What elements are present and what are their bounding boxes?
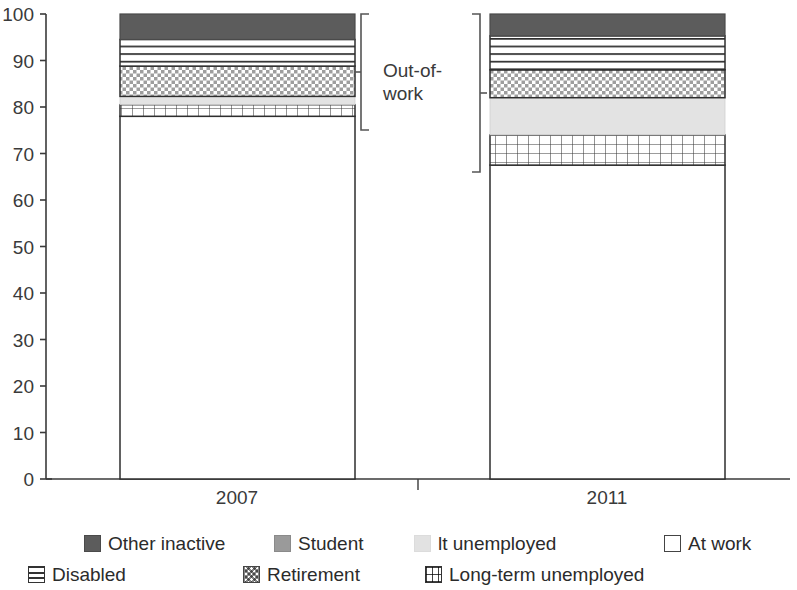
legend-label-disabled: Disabled [52, 564, 126, 586]
solid-dark-swatch-icon [84, 535, 101, 552]
y-tick-label: 80 [13, 97, 34, 118]
y-tick-label: 0 [23, 469, 34, 490]
chart-legend: Other inactive Student lt unemployed At … [0, 528, 797, 590]
segment-other-inactive-2007[interactable] [120, 14, 355, 40]
legend-item-student[interactable]: Student [274, 533, 414, 555]
out-of-work-label-line2: work [382, 83, 424, 104]
out-of-work-label-line1: Out-of- [383, 60, 442, 81]
y-tick-label: 60 [13, 190, 34, 211]
segment-other-inactive-2011[interactable] [490, 14, 725, 36]
segment-long-term-unemployed-2007[interactable] [120, 105, 355, 117]
y-tick-label: 70 [13, 144, 34, 165]
x-tick-label-2011: 2011 [587, 487, 628, 508]
y-tick-label: 10 [13, 423, 34, 444]
legend-item-at-work[interactable]: At work [664, 533, 751, 555]
legend-item-lt-unemployed[interactable]: lt unemployed [414, 533, 664, 555]
legend-label-long-term-unemployed: Long-term unemployed [449, 564, 644, 586]
chart-container: 100 90 80 70 60 50 40 30 20 10 0 2007 20… [0, 0, 797, 590]
solid-light-swatch-icon [414, 535, 431, 552]
legend-item-disabled[interactable]: Disabled [28, 564, 243, 586]
y-tick-label: 50 [13, 237, 34, 258]
bar-2011[interactable] [490, 14, 725, 479]
y-tick-label: 100 [2, 4, 34, 25]
y-tick-label: 40 [13, 283, 34, 304]
x-tick-label-2007: 2007 [216, 487, 258, 508]
segment-at-work-2007[interactable] [120, 116, 355, 479]
checker-swatch-icon [243, 566, 260, 583]
legend-item-long-term-unemployed[interactable]: Long-term unemployed [425, 564, 644, 586]
segment-at-work-2011[interactable] [490, 165, 725, 479]
segment-disabled-2011[interactable] [490, 36, 725, 70]
out-of-work-bracket-2007 [354, 14, 369, 130]
legend-label-other-inactive: Other inactive [108, 533, 225, 555]
legend-item-retirement[interactable]: Retirement [243, 564, 425, 586]
out-of-work-annotation: Out-of- work [382, 60, 442, 104]
segment-retirement-2007[interactable] [120, 66, 355, 96]
bar-2007[interactable] [120, 14, 355, 479]
legend-label-retirement: Retirement [267, 564, 360, 586]
y-axis: 100 90 80 70 60 50 40 30 20 10 0 [2, 4, 52, 490]
legend-row-1: Other inactive Student lt unemployed At … [0, 528, 797, 559]
horizontal-stripe-swatch-icon [28, 566, 45, 583]
y-axis-tick-labels: 100 90 80 70 60 50 40 30 20 10 0 [2, 4, 34, 490]
empty-swatch-icon [664, 535, 681, 552]
grid-swatch-icon [425, 566, 442, 583]
solid-medium-swatch-icon [274, 535, 291, 552]
legend-item-other-inactive[interactable]: Other inactive [84, 533, 274, 555]
segment-long-term-unemployed-2011[interactable] [490, 135, 725, 165]
segment-retirement-2011[interactable] [490, 70, 725, 98]
legend-label-at-work: At work [688, 533, 751, 555]
y-tick-label: 20 [13, 376, 34, 397]
stacked-bar-chart: 100 90 80 70 60 50 40 30 20 10 0 2007 20… [0, 0, 797, 528]
legend-row-2: Disabled Retirement Long-term unemployed [0, 559, 797, 590]
legend-label-lt-unemployed: lt unemployed [438, 533, 556, 555]
x-axis: 2007 2011 [46, 479, 790, 508]
segment-disabled-2007[interactable] [120, 40, 355, 67]
y-tick-label: 30 [13, 330, 34, 351]
segment-lt-unemployed-2011[interactable] [490, 98, 725, 135]
legend-label-student: Student [298, 533, 364, 555]
y-tick-label: 90 [13, 51, 34, 72]
out-of-work-bracket-2011 [472, 14, 487, 172]
segment-lt-unemployed-2007[interactable] [120, 96, 355, 104]
